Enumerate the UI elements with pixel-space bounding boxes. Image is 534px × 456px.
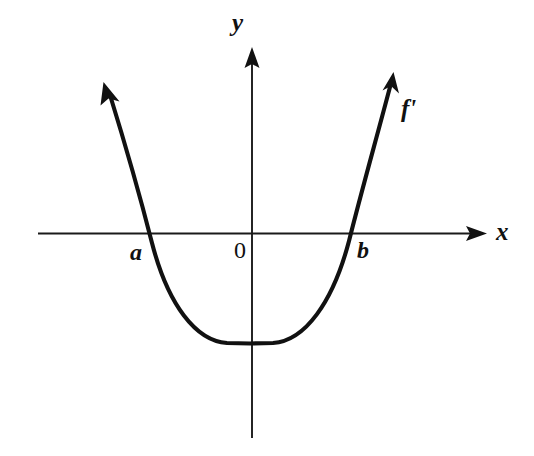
y-axis-label: y <box>232 10 243 35</box>
x-axis <box>38 226 487 241</box>
origin-label: 0 <box>234 238 246 262</box>
root-a-label: a <box>130 240 142 264</box>
figure-canvas: y x 0 a b f' <box>0 0 534 456</box>
parabola-path <box>110 87 390 344</box>
graph-svg <box>0 0 534 456</box>
curve-left-arrowhead-icon <box>101 82 120 106</box>
curve-name-label: f' <box>401 96 416 121</box>
y-axis <box>245 47 260 438</box>
root-b-label: b <box>357 238 369 262</box>
derivative-curve <box>101 72 400 344</box>
x-axis-label: x <box>496 219 509 244</box>
